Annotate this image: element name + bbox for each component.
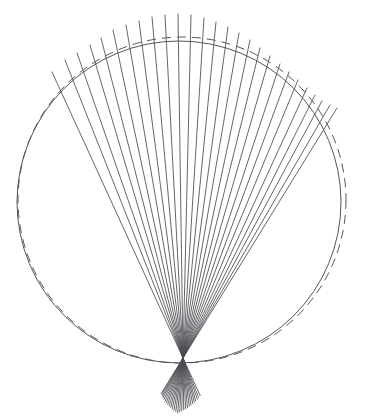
caustic-ray-diagram bbox=[0, 0, 367, 416]
figure-container bbox=[0, 0, 367, 416]
